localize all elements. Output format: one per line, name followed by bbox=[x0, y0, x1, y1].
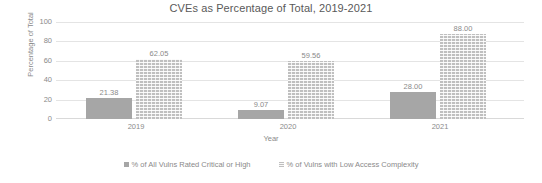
bar-label-2021-low-access-complexity: 88.00 bbox=[454, 24, 473, 33]
bar-chart: CVEs as Percentage of Total, 2019-2021 1… bbox=[0, 0, 542, 183]
bar-2020-low-access-complexity[interactable]: 59.56 bbox=[288, 61, 334, 119]
chart-legend: % of All Vulns Rated Critical or High % … bbox=[0, 160, 542, 169]
legend-swatch-icon-critical-high bbox=[124, 162, 129, 167]
y-axis-title: Percentage of Total bbox=[26, 3, 35, 87]
x-tick-2020: 2020 bbox=[258, 122, 318, 131]
legend-item-critical-high[interactable]: % of All Vulns Rated Critical or High bbox=[124, 160, 251, 169]
bar-group-2019: 21.38 62.05 bbox=[86, 22, 206, 119]
bar-2020-critical-high[interactable]: 9.07 bbox=[238, 110, 284, 119]
x-tick-2021: 2021 bbox=[410, 122, 470, 131]
legend-label-low-access-complexity: % of Vulns with Low Access Complexity bbox=[287, 160, 419, 169]
bar-label-2020-critical-high: 9.07 bbox=[254, 100, 269, 109]
legend-item-low-access-complexity[interactable]: % of Vulns with Low Access Complexity bbox=[279, 160, 419, 169]
bar-2021-low-access-complexity[interactable]: 88.00 bbox=[440, 34, 486, 119]
y-axis-title-wrap: Percentage of Total bbox=[14, 22, 28, 119]
legend-swatch-icon-low-access-complexity bbox=[279, 162, 284, 167]
bar-label-2021-critical-high: 28.00 bbox=[404, 82, 423, 91]
plot-area: 21.38 62.05 9.07 59.56 28.00 88.00 bbox=[56, 22, 524, 119]
legend-label-critical-high: % of All Vulns Rated Critical or High bbox=[132, 160, 251, 169]
bar-2019-critical-high[interactable]: 21.38 bbox=[86, 98, 132, 119]
bar-label-2019-low-access-complexity: 62.05 bbox=[150, 49, 169, 58]
bar-2019-low-access-complexity[interactable]: 62.05 bbox=[136, 59, 182, 119]
bar-group-2021: 28.00 88.00 bbox=[390, 22, 510, 119]
bar-group-2020: 9.07 59.56 bbox=[238, 22, 358, 119]
bar-2021-critical-high[interactable]: 28.00 bbox=[390, 92, 436, 119]
x-tick-2019: 2019 bbox=[106, 122, 166, 131]
bar-label-2019-critical-high: 21.38 bbox=[100, 88, 119, 97]
x-axis-title: Year bbox=[0, 134, 542, 143]
chart-title: CVEs as Percentage of Total, 2019-2021 bbox=[0, 2, 542, 14]
bar-label-2020-low-access-complexity: 59.56 bbox=[302, 51, 321, 60]
